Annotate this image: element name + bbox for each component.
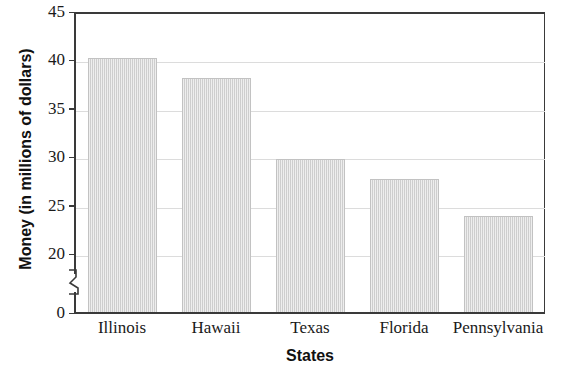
bar-illinois <box>88 58 157 314</box>
bar-hawaii <box>182 78 251 313</box>
y-axis-spine-upper <box>74 12 76 274</box>
y-tick-label-30: 30 <box>7 148 65 165</box>
y-tick-label-45: 45 <box>7 3 65 20</box>
x-axis-title: States <box>75 347 545 365</box>
bar-florida <box>370 179 439 314</box>
y-tick-mark-40 <box>69 60 76 62</box>
y-tick-label-20: 20 <box>7 245 65 262</box>
y-tick-label-40: 40 <box>7 51 65 68</box>
y-tick-mark-20 <box>69 254 76 256</box>
x-axis-spine <box>74 312 545 314</box>
y-tick-mark-45 <box>69 12 76 14</box>
y-tick-label-35: 35 <box>7 100 65 117</box>
y-tick-label-25: 25 <box>7 197 65 214</box>
plot-area <box>75 12 545 313</box>
y-tick-mark-25 <box>69 205 76 207</box>
y-tick-mark-30 <box>69 157 76 159</box>
axis-break-icon <box>66 268 86 296</box>
bar-chart: Money (in millions of dollars) 454035302… <box>0 0 563 373</box>
x-tick-label-pennsylvania: Pennsylvania <box>438 318 558 338</box>
bar-texas <box>276 159 345 313</box>
bar-pennsylvania <box>464 216 533 313</box>
y-tick-mark-35 <box>69 108 76 110</box>
y-tick-mark-0 <box>69 313 76 315</box>
y-tick-label-0: 0 <box>7 304 65 321</box>
